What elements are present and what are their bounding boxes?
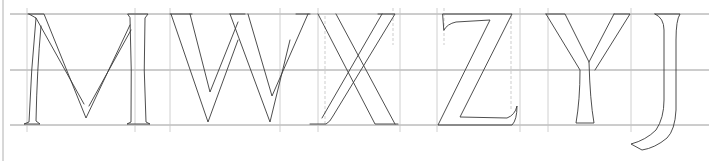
letter-j xyxy=(631,14,680,150)
letter-w xyxy=(170,14,310,122)
letter-y xyxy=(546,14,630,123)
letter-m xyxy=(24,14,150,124)
lettering-sheet xyxy=(0,0,709,161)
horizontal-guides xyxy=(10,14,709,125)
letter-x xyxy=(310,14,398,124)
